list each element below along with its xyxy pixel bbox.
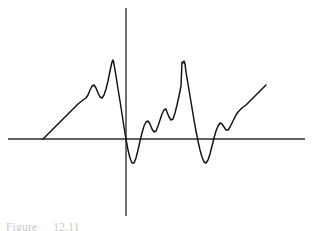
fourier-partial-sum-curve: [43, 60, 266, 163]
caption-number: 12.11: [53, 220, 79, 231]
caption-label: Figure: [6, 220, 37, 231]
plot-canvas: [0, 0, 313, 231]
figure-container: Figure12.11: [0, 0, 313, 231]
figure-caption: Figure12.11: [6, 218, 306, 231]
